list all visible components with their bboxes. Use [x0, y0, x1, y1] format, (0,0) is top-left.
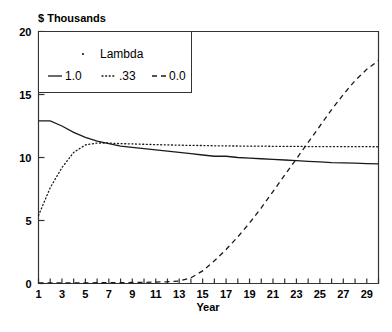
x-tick-label: 11: [150, 288, 162, 300]
series-line-00: [39, 60, 379, 282]
x-tick-label: 23: [290, 288, 302, 300]
x-tick-label: 13: [173, 288, 185, 300]
x-axis-title: Year: [196, 301, 220, 313]
x-tick-label: 1: [35, 288, 41, 300]
y-tick-label: 0: [25, 278, 31, 290]
x-tick-label: 17: [220, 288, 232, 300]
x-tick-label: 25: [314, 288, 326, 300]
y-tick-label: 15: [19, 89, 31, 101]
x-tick-label: 7: [106, 288, 112, 300]
x-tick-label: 9: [129, 288, 135, 300]
x-tick-label: 5: [82, 288, 88, 300]
chart-container: 05101520 1357911131517192123252729 $ Tho…: [0, 0, 392, 332]
legend-label-00: 0.0: [169, 69, 186, 83]
legend-label-33: .33: [119, 69, 136, 83]
x-tick-label: 21: [267, 288, 279, 300]
y-axis-title: $ Thousands: [38, 12, 106, 24]
x-tick-label: 19: [243, 288, 255, 300]
x-tick-label: 29: [361, 288, 373, 300]
line-chart: 05101520 1357911131517192123252729 $ Tho…: [0, 0, 392, 332]
y-tick-label: 5: [25, 215, 31, 227]
x-tick-label: 3: [59, 288, 65, 300]
x-tick-label: 15: [197, 288, 209, 300]
data-series-group: [39, 60, 379, 282]
series-line-10: [39, 121, 379, 164]
legend-box: [39, 32, 192, 93]
x-axis-ticks: 1357911131517192123252729: [35, 279, 378, 300]
x-tick-label: 27: [337, 288, 349, 300]
y-tick-label: 20: [19, 26, 31, 38]
series-line-33: [39, 143, 379, 215]
y-tick-label: 10: [19, 152, 31, 164]
legend-label-10: 1.0: [65, 69, 82, 83]
chart-legend: Lambda 1.0.330.0: [39, 32, 192, 93]
legend-dot-icon: [82, 53, 84, 55]
legend-title: Lambda: [100, 47, 144, 61]
